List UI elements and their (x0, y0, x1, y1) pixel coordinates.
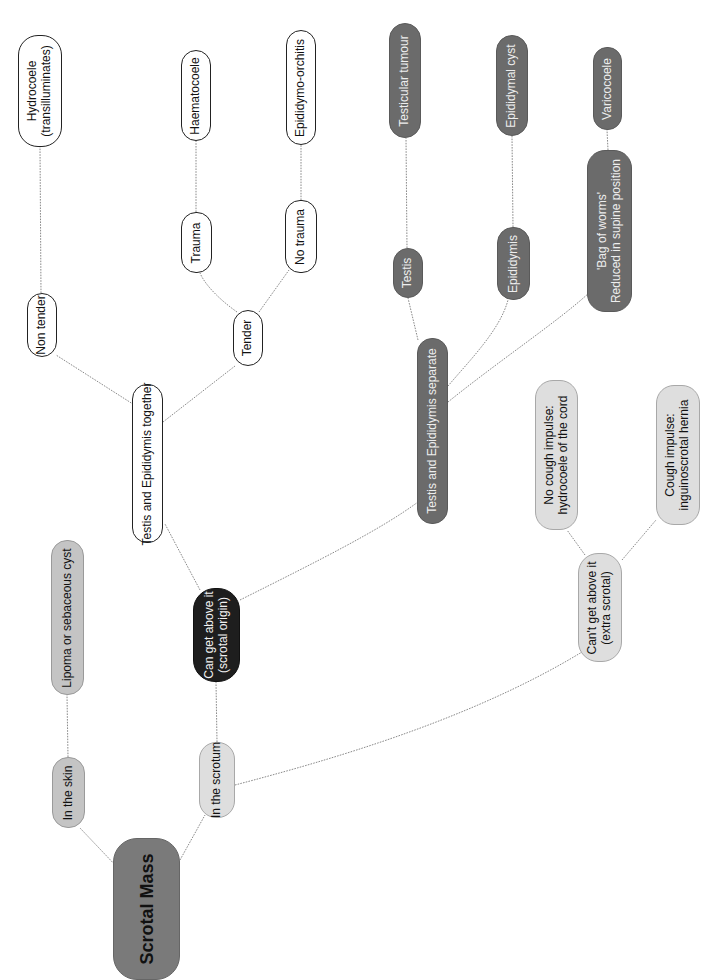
node-bag-of-worms: 'Bag of worms' Reduced in supine positio… (587, 150, 632, 312)
label: Haematocoele (189, 57, 203, 134)
label: Testis and Epididymis separate (426, 348, 440, 513)
node-testis-epididymis-separate: Testis and Epididymis separate (417, 338, 448, 524)
node-cough-impulse: Cough impulse: inguinoscrotal hernia (656, 385, 700, 525)
label-line-2: hydrocoele of the cord (557, 396, 571, 515)
node-testis-epididymis-together: Testis and Epididymis together (132, 384, 163, 543)
label: In the scrotum (210, 742, 224, 818)
node-haematocoele: Haematocoele (181, 50, 211, 141)
label: Epididymo-orchitis (294, 38, 308, 136)
label-line-1: Can get above it (203, 591, 217, 678)
label: Testis and Epididymis together (141, 382, 155, 545)
edge-canget-separate (240, 502, 418, 600)
node-testis: Testis (393, 248, 423, 298)
label-line-2: (transilluminates) (40, 45, 54, 136)
edge-scrotum-canget (216, 682, 217, 742)
node-trauma: Trauma (181, 212, 212, 273)
label-line-2: inguinoscrotal hernia (678, 400, 692, 511)
label: Varicocoele (601, 58, 615, 120)
edge-tender-notrauma (259, 270, 289, 312)
label: Testis (401, 258, 415, 289)
node-epididymis: Epididymis (497, 227, 530, 300)
label: Lipoma or sebaceous cyst (61, 548, 75, 687)
edge-epididymis-cyst (512, 136, 513, 227)
label-line-1: Hydrocoele (26, 45, 40, 136)
label-line-2: (extra scrotal) (600, 561, 614, 654)
node-epididymo-orchitis: Epididymo-orchitis (286, 30, 316, 145)
label: No trauma (294, 208, 308, 264)
edge-bagofworms-varicocoele (607, 130, 608, 150)
edge-testis-tumour (406, 138, 407, 248)
label: Trauma (190, 222, 204, 263)
label: Non tender (35, 295, 49, 354)
edge-cantget-cough (622, 520, 656, 560)
node-tender: Tender (233, 310, 263, 366)
label-line-2: Reduced in supine position (610, 159, 624, 303)
node-no-trauma: No trauma (285, 200, 317, 273)
label: Testicular tumour (398, 35, 412, 126)
edge-canget-together (165, 524, 200, 590)
label-line-1: No cough impulse: (543, 396, 557, 515)
edge-separate-epididymis (448, 300, 508, 386)
node-in-the-scrotum: In the scrotum (199, 742, 235, 818)
label: Tender (241, 320, 255, 357)
edge-together-nontender (56, 355, 136, 406)
edge-separate-testis (408, 298, 418, 340)
edge-cantget-nocough (567, 530, 585, 555)
label-line-2: (scrotal origin) (217, 591, 231, 678)
node-epididymal-cyst: Epididymal cyst (496, 35, 528, 136)
node-cant-get-above-it: Can't get above it (extra scrotal) (578, 553, 622, 662)
node-no-cough-impulse: No cough impulse: hydrocoele of the cord (535, 380, 578, 530)
label: Epididymal cyst (505, 44, 519, 127)
edge-root-in-scrotum (180, 815, 205, 860)
label-line-1: Can't get above it (586, 561, 600, 654)
edge-scrotum-cantget (235, 652, 582, 785)
node-testicular-tumour: Testicular tumour (389, 23, 421, 138)
edge-nontender-hydrocoele (40, 147, 41, 293)
root-label: Scrotal Mass (136, 853, 157, 964)
edge-skin-lipoma (67, 695, 68, 757)
node-in-the-skin: In the skin (52, 757, 85, 828)
label-line-1: 'Bag of worms' (596, 159, 610, 303)
root-node-scrotal-mass: Scrotal Mass (113, 838, 180, 980)
edge-together-tender (163, 366, 235, 422)
label: Epididymis (507, 234, 521, 292)
node-can-get-above-it: Can get above it (scrotal origin) (193, 588, 240, 682)
node-hydrocoele: Hydrocoele (transilluminates) (18, 35, 62, 147)
node-non-tender: Non tender (27, 293, 57, 357)
node-varicocoele: Varicocoele (593, 47, 622, 130)
edge-tender-trauma (200, 273, 237, 312)
label-line-1: Cough impulse: (664, 400, 678, 511)
label: In the skin (62, 765, 76, 820)
node-lipoma-or-sebaceous-cyst: Lipoma or sebaceous cyst (51, 540, 84, 695)
